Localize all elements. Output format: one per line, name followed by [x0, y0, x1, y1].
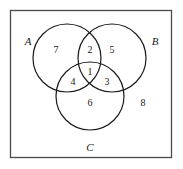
set-label-c: C [86, 141, 94, 153]
region-label-c-only: 6 [88, 97, 93, 108]
region-label-a-and-c: 4 [71, 76, 76, 87]
region-label-a-and-b: 2 [88, 44, 93, 55]
region-label-a-and-b-and-c: 1 [88, 66, 93, 77]
set-label-a: A [24, 35, 32, 47]
region-label-a-only: 7 [54, 44, 59, 55]
region-label-outside-all: 8 [141, 97, 146, 108]
venn-diagram-canvas: A B C 7 2 5 1 4 3 6 8 [0, 0, 183, 169]
region-label-b-and-c: 3 [105, 76, 110, 87]
region-label-b-only: 5 [110, 44, 115, 55]
venn-diagram-figure: A B C 7 2 5 1 4 3 6 8 [0, 0, 183, 169]
set-label-b: B [152, 35, 159, 47]
